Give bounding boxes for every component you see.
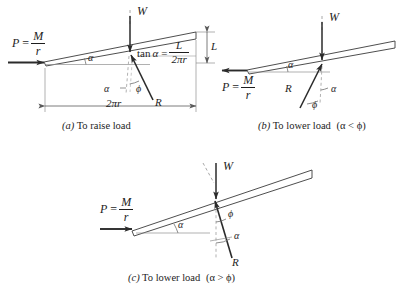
panel-a-force-R-label: R (155, 97, 162, 108)
panel-c-force-R-label: R (232, 257, 239, 268)
panel-a-force-P-label: P = M r (12, 30, 45, 57)
panel-b-force-P-label: P = M r (222, 74, 255, 101)
panel-b-caption: (b) To lower load (α < ϕ) (258, 120, 366, 131)
panel-a-normal-dashed (126, 56, 129, 94)
panel-b-force-R-arrow (300, 64, 322, 108)
panel-a-dim-L-label: L (211, 41, 217, 52)
panel-b-inclined-plane (247, 41, 395, 74)
panel-b-angle-phi-label: ϕ (312, 100, 317, 110)
panel-a-angle-alpha-label-2: α (104, 84, 109, 94)
panel-c-force-W-label: W (223, 160, 233, 172)
panel-a-relation-tan-alpha: tan α = L 2πr (137, 40, 189, 65)
figure-canvas (0, 0, 409, 300)
panel-a-dim-base-label: 2πr (106, 98, 121, 109)
panel-b-angle-alpha-label-2: α (331, 84, 336, 94)
panel-b-force-W-label: W (329, 11, 339, 23)
panel-b-force-R-label: R (285, 83, 292, 94)
panel-c-angle-phi-label: ϕ (228, 209, 233, 219)
panel-a-normal-dashed-2 (130, 56, 133, 92)
panel-a-force-W-label: W (137, 5, 147, 17)
panel-b-angle-alpha-arc-2 (321, 88, 328, 90)
figure-root: P = M r W R α α ϕ tan α = L 2πr L 2πr (a… (0, 0, 409, 300)
panel-c-angle-ref-line (210, 237, 232, 241)
panel-c-force-W-dashed-extension (203, 163, 214, 183)
panel-c-caption: (c) To lower load (α > ϕ) (128, 272, 235, 283)
panel-a-angle-alpha-label: α (88, 53, 93, 63)
panel-a-angle-phi-label: ϕ (136, 84, 141, 94)
panel-c-force-P-label: P = M r (100, 196, 133, 223)
panel-b-angle-alpha-label: α (288, 60, 293, 70)
panel-c-angle-alpha-label-2: α (234, 231, 239, 241)
panel-a-caption: (a) To raise load (62, 120, 131, 131)
panel-c-angle-alpha-label: α (178, 220, 183, 230)
